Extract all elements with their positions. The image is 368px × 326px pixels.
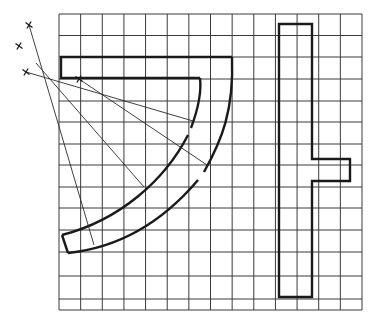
diagram-canvas <box>0 0 368 326</box>
x-marks <box>16 22 83 83</box>
quarter-ring-shape <box>61 57 232 253</box>
construction-ray <box>36 63 144 187</box>
x-mark-icon <box>26 22 33 29</box>
ring-end-cap <box>62 235 68 253</box>
ring-outer-arc-lower <box>68 180 198 253</box>
x-mark-icon <box>23 69 30 76</box>
ring-outer-arc-upper <box>204 57 232 172</box>
x-mark-icon <box>16 43 23 50</box>
t-bar-shape <box>279 24 350 297</box>
ring-top-edge <box>61 57 232 78</box>
